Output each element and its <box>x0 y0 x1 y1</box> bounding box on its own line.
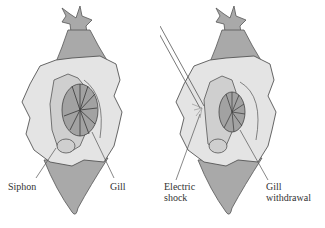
electric-shock-label: Electric shock <box>164 181 195 203</box>
aplysia-after-figure: Electric shock Gill withdrawal <box>160 0 325 228</box>
aplysia-before-figure: Siphon Gill <box>0 0 160 228</box>
aplysia-illustration <box>0 0 160 228</box>
electric-shock-line1: Electric <box>164 181 195 192</box>
gill-withdrawal-line2: withdrawal <box>266 192 311 203</box>
gill-withdrawal-line1: Gill <box>266 181 311 192</box>
siphon-label: Siphon <box>8 181 36 192</box>
gill-withdrawal-label: Gill withdrawal <box>266 181 311 203</box>
electric-shock-line2: shock <box>164 192 195 203</box>
gill-label: Gill <box>110 181 126 192</box>
